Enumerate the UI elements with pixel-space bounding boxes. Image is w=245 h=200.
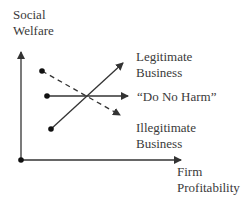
do-no-harm-label: “Do No Harm” (137, 89, 216, 105)
illegitimate-label-line1: Illegitimate (136, 120, 196, 136)
x-axis-label-line1: Firm (177, 164, 240, 180)
do-no-harm-start-dot (44, 93, 50, 99)
origin-dot (18, 157, 24, 163)
y-axis-label: Social Welfare (13, 7, 54, 39)
x-axis-label: Firm Profitability (177, 164, 240, 196)
do-no-harm-label-line1: “Do No Harm” (137, 89, 216, 105)
illegitimate-label-line2: Business (136, 136, 196, 152)
legitimate-label-line2: Business (136, 65, 192, 81)
y-axis-label-line1: Social (13, 7, 54, 23)
legitimate-business-label: Legitimate Business (136, 49, 192, 81)
illegitimate-business-label: Illegitimate Business (136, 120, 196, 152)
illegitimate-start-dot (39, 68, 45, 74)
legitimate-start-dot (48, 126, 54, 132)
x-axis-label-line2: Profitability (177, 180, 240, 196)
y-axis-label-line2: Welfare (13, 23, 54, 39)
illegitimate-business-line (42, 71, 120, 115)
legitimate-label-line1: Legitimate (136, 49, 192, 65)
